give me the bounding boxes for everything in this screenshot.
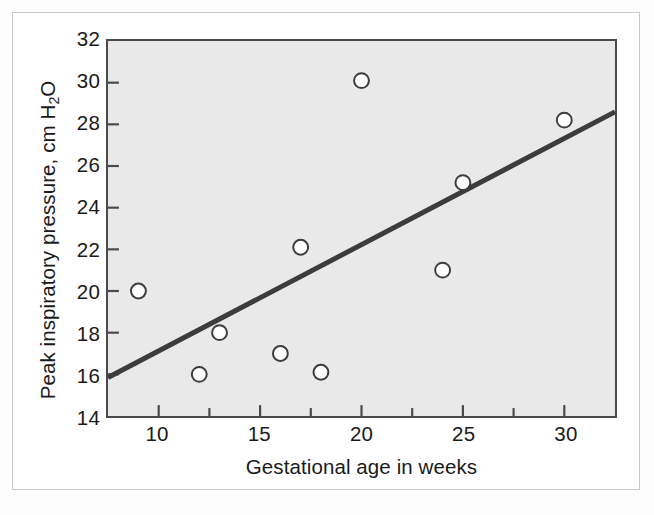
y-axis-title-main: Peak inspiratory pressure, cm H [36, 105, 59, 400]
y-axis-title-subscript: 2 [46, 97, 62, 105]
x-tick-label: 10 [127, 424, 187, 445]
x-axis-tick-labels: 1015202530 [0, 0, 654, 515]
x-tick-label: 25 [434, 424, 494, 445]
scatter-chart-figure: 14161820222426283032 1015202530 Gestatio… [0, 0, 654, 515]
x-tick-label: 30 [536, 424, 596, 445]
y-axis-title: Peak inspiratory pressure, cm H2O [36, 40, 60, 440]
figure-page: 14161820222426283032 1015202530 Gestatio… [0, 0, 654, 515]
x-axis-title: Gestational age in weeks [106, 455, 617, 479]
x-tick-label: 20 [332, 424, 392, 445]
x-tick-label: 15 [229, 424, 289, 445]
y-axis-title-tail: O [36, 81, 59, 97]
